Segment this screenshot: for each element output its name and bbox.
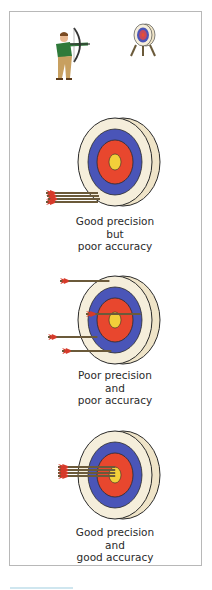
caption-line: and xyxy=(60,382,170,395)
caption-line: good accuracy xyxy=(60,551,170,564)
caption-panel-3: Good precision and good accuracy xyxy=(60,526,170,564)
caption-panel-1: Good precision but poor accuracy xyxy=(60,215,170,253)
caption-line: Good precision xyxy=(60,526,170,539)
arrows-clustered-off-center xyxy=(46,190,100,205)
caption-line: Good precision xyxy=(60,215,170,228)
caption-line: poor accuracy xyxy=(60,394,170,407)
caption-line: poor accuracy xyxy=(60,240,170,253)
caption-line: and xyxy=(60,539,170,552)
caption-panel-2: Poor precision and poor accuracy xyxy=(60,369,170,407)
caption-line: but xyxy=(60,228,170,241)
precision-accuracy-diagram xyxy=(0,0,212,590)
caption-line: Poor precision xyxy=(60,369,170,382)
target-stand-icon xyxy=(131,24,155,56)
archer-icon xyxy=(56,28,90,80)
